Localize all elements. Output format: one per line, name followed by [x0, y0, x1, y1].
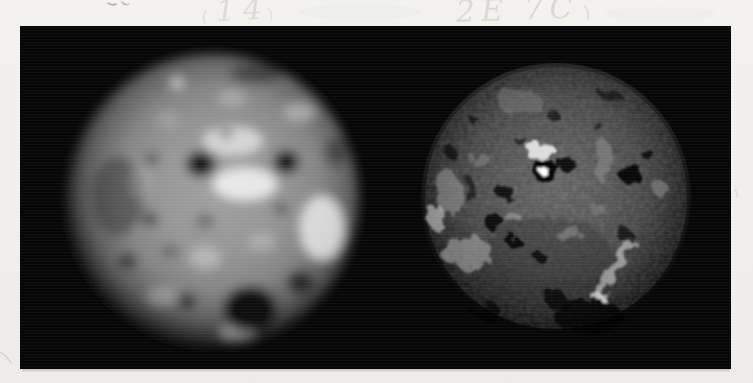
print-raster-overlay — [20, 26, 731, 369]
handwriting-left-note: 14 — [215, 0, 271, 28]
handwriting-right-note: 2E 7C — [454, 0, 579, 29]
photo-canvas: 14 2E 7C — [0, 0, 753, 383]
scanned-photo-page: 14 2E 7C — [0, 0, 753, 383]
